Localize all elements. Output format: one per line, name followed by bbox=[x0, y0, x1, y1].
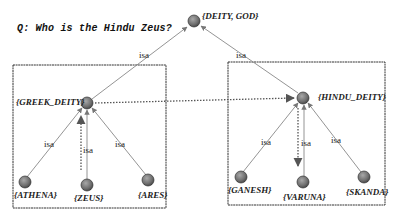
node-athena[interactable] bbox=[19, 176, 31, 188]
node-zeus[interactable] bbox=[81, 179, 93, 191]
isa-label-ganesh: isa bbox=[261, 137, 271, 147]
label-skanda: {SKANDA} bbox=[346, 187, 388, 197]
isa-label-greek-root: isa bbox=[139, 50, 149, 60]
edge-hindu-root bbox=[201, 26, 298, 93]
edge-athena-greek bbox=[27, 108, 82, 177]
label-varuna: {VARUNA} bbox=[283, 192, 326, 202]
label-ares: {ARES} bbox=[138, 190, 167, 200]
node-varuna[interactable] bbox=[297, 176, 309, 188]
isa-label-athena: isa bbox=[44, 139, 54, 149]
label-greek-deity: {GREEK_DEITY} bbox=[16, 97, 84, 107]
isa-label-varuna: isa bbox=[301, 138, 311, 148]
node-deity-god[interactable] bbox=[188, 15, 200, 27]
isa-label-zeus: isa bbox=[83, 145, 93, 155]
node-ganesh[interactable] bbox=[235, 171, 247, 183]
node-hindu-deity[interactable] bbox=[297, 92, 309, 104]
label-athena: {ATHENA} bbox=[14, 190, 57, 200]
isa-label-ares: isa bbox=[115, 139, 125, 149]
node-skanda[interactable] bbox=[358, 171, 370, 183]
isa-label-skanda: isa bbox=[331, 135, 341, 145]
isa-label-hindu-root: isa bbox=[236, 50, 246, 60]
label-ganesh: {GANESH} bbox=[228, 185, 271, 195]
dotted-greek-hindu bbox=[95, 98, 294, 103]
edge-greek-root bbox=[92, 27, 187, 99]
label-deity-god: {DEITY, GOD} bbox=[202, 11, 258, 21]
label-zeus: {ZEUS} bbox=[74, 193, 103, 203]
semantic-network bbox=[0, 0, 400, 218]
node-ares[interactable] bbox=[142, 174, 154, 186]
label-hindu-deity: {HINDU_DEITY} bbox=[318, 92, 386, 102]
